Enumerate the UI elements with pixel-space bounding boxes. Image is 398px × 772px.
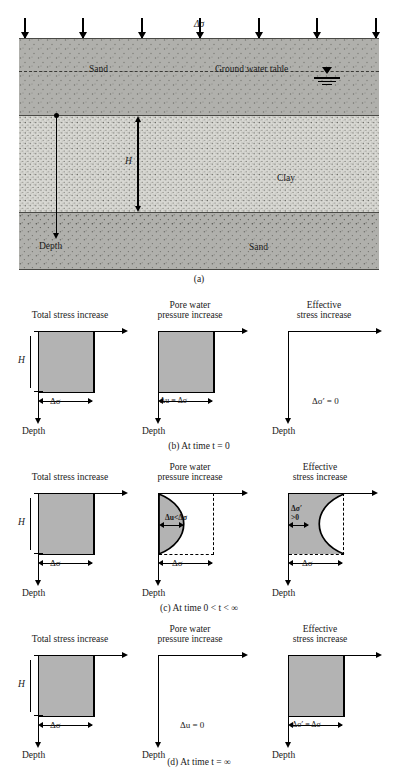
panel-b-h-dim-line [30, 336, 31, 388]
panel-c-eff-curve-label-1: Δσ′ [291, 504, 302, 513]
panel-c-total-value: Δσ [50, 558, 61, 568]
panel-b-pore-vaxis-head [155, 418, 161, 424]
panel-d-total-dim [40, 725, 92, 726]
panel-c-pore-title-2: pressure increase [128, 472, 252, 483]
panel-b-total-dim-right [88, 398, 93, 404]
sand-top-label: Sand [89, 64, 108, 74]
panel-b-total-vaxis-head [35, 418, 41, 424]
panel-d-pore-value: Δu = 0 [180, 720, 204, 730]
panel-d-pore-vaxis-head [155, 742, 161, 748]
panel-c-eff-haxis-head [372, 490, 378, 496]
panel-b-total-title: Total stress increase [8, 310, 132, 321]
panel-c-eff-dim-right [338, 560, 343, 566]
panel-b-eff-haxis [288, 331, 378, 332]
depth-axis-line [56, 115, 57, 234]
panel-b-eff-depth: Depth [272, 426, 295, 436]
panel-d-pore-title-1: Pore water [128, 624, 252, 635]
panel-b-pore-haxis-head [242, 328, 248, 334]
load-arrow [199, 18, 201, 38]
ground-surface-line [19, 38, 379, 39]
sand-clay-boundary [19, 115, 379, 116]
panel-b-h-tick-top [34, 331, 43, 332]
panel-c: Total stress increase H Δσ Depth Pore wa… [0, 462, 398, 622]
load-arrow [141, 18, 143, 38]
panel-d-pore-haxis-head [242, 652, 248, 658]
caption-d: (d) At time t = ∞ [0, 757, 398, 767]
panel-d-total-haxis-head [122, 652, 128, 658]
panel-d-eff-haxis-head [376, 652, 382, 658]
panel-c-total-box-bottom [39, 554, 95, 556]
panel-d-pore-haxis [158, 655, 244, 656]
panel-c-eff-inner-dim-right [304, 522, 309, 528]
load-arrow [375, 18, 377, 38]
clay-sand-boundary [19, 212, 379, 213]
sand-bottom-layer [19, 212, 379, 270]
panel-c-total-dim [40, 563, 92, 564]
panel-b-total-box [39, 332, 94, 392]
panel-d-eff-dim-right [338, 722, 343, 728]
panel-c-h-dim-line [30, 498, 31, 550]
panel-d-pore-vaxis [158, 655, 159, 745]
load-arrow [258, 18, 260, 38]
panel-d-total-dim-left [38, 722, 43, 728]
panel-c-pore-dim-right [208, 560, 213, 566]
panel-c-h-label: H [18, 517, 25, 527]
panel-d-eff-box-right [343, 655, 345, 717]
panel-c-eff-title-1: Effective [258, 462, 382, 473]
depth-arrow-head [53, 233, 59, 239]
panel-d-h-label: H [18, 679, 25, 689]
panel-c-pore-depth: Depth [142, 588, 165, 598]
panel-c-pore-inner-dim-left [159, 522, 164, 528]
panel-b-pore-box-right [213, 331, 215, 393]
panel-b-pore-title-2: pressure increase [128, 310, 252, 321]
sand-bottom-label: Sand [249, 242, 268, 252]
panel-c-eff-vaxis-head [285, 580, 291, 586]
panel-b-total-dim [40, 401, 92, 402]
panel-c-eff-inner-dim-left [288, 522, 293, 528]
panel-c-eff-title-2: stress increase [258, 472, 382, 483]
clay-layer [19, 115, 379, 212]
depth-label: Depth [39, 241, 62, 251]
panel-b-eff-vaxis-head [285, 418, 291, 424]
panel-b: Total stress increase H Δσ Depth Pore wa… [0, 300, 398, 460]
panel-d-eff-box [289, 656, 344, 716]
panel-c-eff-dash-v [343, 493, 344, 555]
panel-d-h-dim-line [30, 660, 31, 712]
panel-b-eff-title-1: Effective [262, 300, 386, 311]
panel-c-h-tick-bottom [34, 553, 43, 554]
panel-b-total-haxis-head [122, 328, 128, 334]
surcharge-arrow-row: Δσ [0, 18, 398, 40]
h-arrow-bottom [135, 206, 141, 212]
panel-c-pore-dim [160, 563, 212, 564]
panel-d-eff-box-bottom [289, 716, 345, 718]
panel-c-pore-haxis-head [242, 490, 248, 496]
panel-d-total-box [39, 656, 94, 716]
caption-b: (b) At time t = 0 [0, 441, 398, 451]
panel-b-total-value: Δσ [50, 396, 61, 406]
panel-d-total-dim-right [88, 722, 93, 728]
panel-d-total-box-bottom [39, 716, 95, 718]
panel-c-total-depth: Depth [22, 588, 45, 598]
panel-c-total-haxis-head [122, 490, 128, 496]
h-dimension-line [137, 118, 138, 209]
panel-c-pore-inner-dim-right [179, 522, 184, 528]
panel-b-pore-box [159, 332, 214, 392]
panel-c-eff-dim [290, 563, 342, 564]
panel-c-h-tick-top [34, 493, 43, 494]
panel-b-eff-haxis-head [376, 328, 382, 334]
panel-d-h-tick-bottom [34, 715, 43, 716]
panel-b-total-box-right [93, 331, 95, 393]
panel-b-h-tick-bottom [34, 391, 43, 392]
clay-label: Clay [277, 173, 295, 183]
soil-profile: Sand Clay Sand Ground water table Depth … [19, 38, 379, 270]
panel-c-pore-dash-h [159, 554, 214, 555]
profile-bottom-line [19, 269, 379, 270]
h-label: H [125, 156, 132, 166]
panel-b-total-box-bottom [39, 392, 95, 394]
panel-d-eff-value: Δσ′ = Δσ [292, 720, 321, 729]
panel-c-eff-dim-left [288, 560, 293, 566]
panel-d-eff-vaxis-head [285, 742, 291, 748]
load-arrow [82, 18, 84, 38]
panel-c-total-vaxis-head [35, 580, 41, 586]
